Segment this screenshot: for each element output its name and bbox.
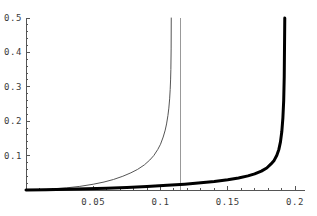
y-tick-label: 0.4 — [0, 48, 22, 57]
plot-canvas — [0, 0, 317, 216]
axes-group — [26, 18, 305, 190]
x-tick-label: 0.1 — [151, 198, 169, 207]
y-tick-label: 0.5 — [0, 14, 22, 23]
y-tick-label: 0.1 — [0, 151, 22, 160]
figure-container: 0.10.20.30.40.5 0.050.10.150.2 — [0, 0, 317, 216]
y-tick-label: 0.3 — [0, 82, 22, 91]
data-series — [26, 18, 285, 190]
series-thick-curve — [26, 18, 285, 190]
axis-ticks — [26, 18, 295, 190]
x-tick-label: 0.15 — [216, 198, 240, 207]
y-tick-label: 0.2 — [0, 117, 22, 126]
x-tick-label: 0.05 — [81, 198, 105, 207]
series-thin-curve — [26, 18, 171, 190]
x-tick-label: 0.2 — [286, 198, 304, 207]
